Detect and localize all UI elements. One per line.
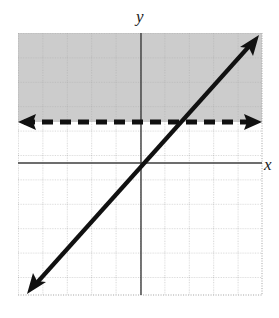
coordinate-graph-figure: y x xyxy=(0,0,279,318)
graph-canvas xyxy=(0,0,279,318)
x-axis-label: x xyxy=(264,156,272,173)
y-axis-label: y xyxy=(136,8,144,25)
